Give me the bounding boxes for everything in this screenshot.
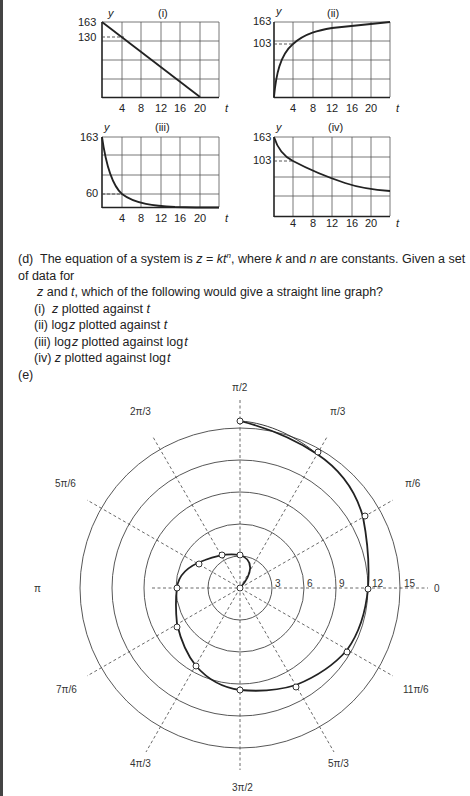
svg-text:y: y [103,121,111,133]
svg-text:9: 9 [339,578,345,589]
svg-text:t: t [396,102,400,114]
polar-curve [176,421,369,691]
svg-text:12: 12 [155,212,167,224]
svg-text:16: 16 [174,212,186,224]
svg-text:12: 12 [372,578,384,589]
option-i: (i) z plotted against t [18,301,470,318]
curve-i [102,22,200,97]
svg-text:(iii): (iii) [155,121,170,133]
svg-text:3: 3 [275,578,281,589]
svg-text:20: 20 [365,217,377,229]
svg-text:y: y [275,121,283,133]
polar-plot: 3 6 9 12 15 0 π/6 π/3 π/2 2π/3 5π/6 π 7π… [34,382,440,793]
angle-label-5pi-6: 5π/6 [55,478,76,489]
svg-text:4: 4 [290,217,296,229]
question-e-label: (e) [18,367,470,384]
graph-iii: y (iii) 163 60 4 8 12 16 20 t [80,121,229,224]
svg-text:20: 20 [194,212,206,224]
svg-text:103: 103 [253,154,271,166]
svg-text:12: 12 [326,217,338,229]
y-tick-top-i: 163 [78,16,96,28]
svg-text:8: 8 [138,212,144,224]
svg-text:6: 6 [307,578,313,589]
figure-canvas: .g{stroke:#555;stroke-width:0.8;fill:non… [0,0,470,796]
option-iv: (iv) z plotted against log t [18,350,470,367]
question-d-line1: (d) The equation of a system is z = ktn,… [18,248,470,284]
angle-label-pi-2: π/2 [232,382,248,393]
svg-text:4: 4 [119,212,125,224]
svg-text:103: 103 [253,37,271,49]
svg-text:12: 12 [326,102,338,114]
svg-text:16: 16 [346,217,358,229]
svg-text:8: 8 [138,102,144,114]
question-d-line2: z and t, which of the following would gi… [18,284,470,301]
svg-text:15: 15 [404,578,416,589]
graph-i: y (i) 163 130 4 8 12 16 20 t [78,7,229,114]
svg-text:4: 4 [119,102,125,114]
svg-text:20: 20 [194,102,206,114]
angle-label-pi-3: π/3 [330,406,346,417]
svg-text:60: 60 [86,187,98,199]
y-axis-label-i: y [107,7,115,19]
angle-label-pi-6: π/6 [405,478,421,489]
angle-label-2pi-3: 2π/3 [130,406,151,417]
curve-iii [102,137,219,208]
graph-title-i: (i) [158,7,168,19]
svg-text:20: 20 [365,102,377,114]
svg-text:t: t [225,212,229,224]
angle-label-4pi-3: 4π/3 [130,758,151,769]
svg-text:(iv): (iv) [328,121,343,133]
svg-text:163: 163 [253,131,271,143]
svg-text:8: 8 [310,102,316,114]
svg-text:16: 16 [346,102,358,114]
y-tick-mark-i: 130 [78,31,96,43]
option-ii: (ii) log z plotted against t [18,317,470,334]
svg-text:t: t [225,102,229,114]
svg-text:16: 16 [174,102,186,114]
svg-text:(ii): (ii) [327,7,339,19]
svg-text:t: t [396,217,400,229]
svg-text:4: 4 [290,102,296,114]
svg-text:163: 163 [80,131,98,143]
svg-text:163: 163 [253,15,271,27]
angle-label-11pi-6: 11π/6 [403,684,429,695]
svg-text:12: 12 [155,102,167,114]
graph-iv: y (iv) 163 103 4 8 12 16 20 t [253,121,400,229]
option-iii: (iii) log z plotted against log t [18,334,470,351]
angle-label-pi: π [34,583,41,594]
question-d: (d) The equation of a system is z = ktn,… [18,248,470,383]
angle-label-3pi-2: 3π/2 [232,782,253,793]
svg-text:8: 8 [310,217,316,229]
svg-text:y: y [275,5,283,17]
angle-label-7pi-6: 7π/6 [56,684,77,695]
graph-ii: y (ii) 163 103 4 8 12 16 20 t [253,5,400,114]
angle-label-0: 0 [434,583,440,594]
angle-label-5pi-3: 5π/3 [328,758,349,769]
